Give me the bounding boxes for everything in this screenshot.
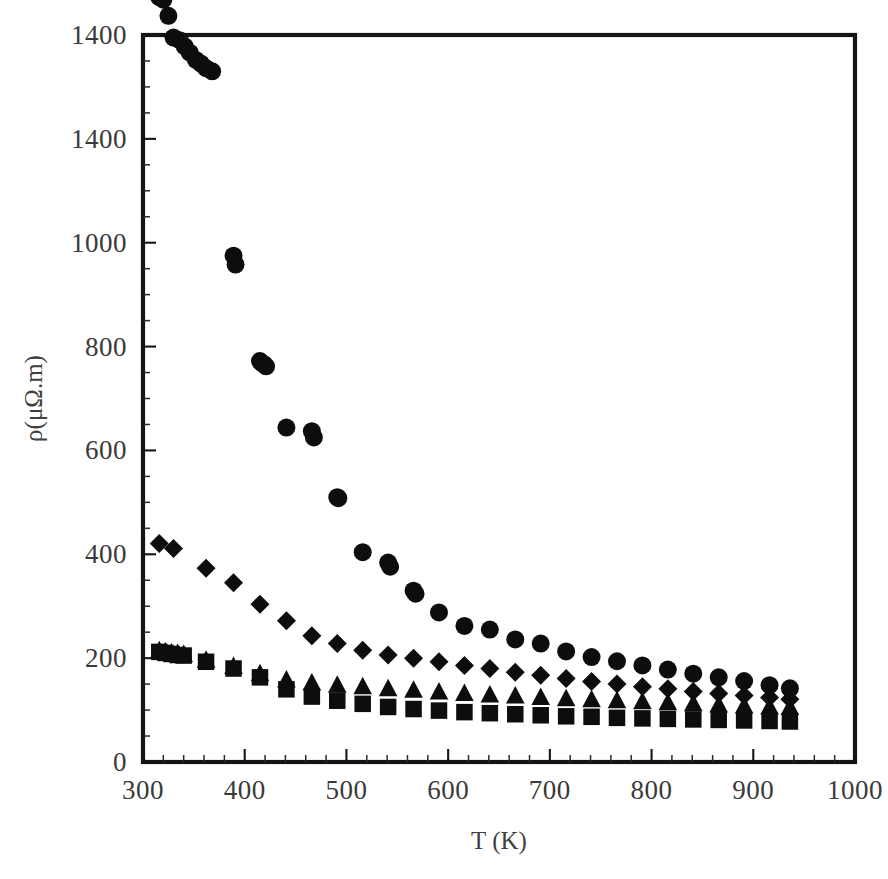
data-point-diamond	[582, 672, 601, 691]
y-tick-label: 600	[85, 435, 127, 465]
data-point-diamond	[379, 646, 398, 665]
y-tick-label: 1400	[71, 124, 127, 154]
data-point-diamond	[531, 666, 550, 685]
y-tick-label: 1400	[71, 20, 127, 50]
resistivity-temperature-figure: 3004005006007008009001000020040060080010…	[0, 0, 888, 879]
data-point-diamond	[197, 559, 216, 578]
data-point-circle	[455, 617, 473, 635]
data-point-triangle	[430, 682, 449, 700]
data-point-triangle	[353, 677, 372, 695]
series-circle	[150, 0, 799, 697]
x-tick-label: 700	[529, 775, 571, 805]
data-point-triangle	[608, 691, 627, 709]
data-point-square	[329, 692, 346, 709]
data-point-circle	[532, 635, 550, 653]
data-point-circle	[659, 661, 677, 679]
data-point-circle	[305, 428, 323, 446]
data-point-circle	[710, 668, 728, 686]
data-point-circle	[633, 656, 651, 674]
data-point-circle	[381, 558, 399, 576]
x-tick-label: 800	[631, 775, 673, 805]
series-triangle	[150, 641, 799, 715]
y-tick-label: 0	[113, 747, 127, 777]
x-tick-label: 500	[325, 775, 367, 805]
data-point-square	[175, 647, 192, 664]
data-point-circle	[203, 62, 221, 80]
data-point-square	[431, 702, 448, 719]
data-point-circle	[481, 621, 499, 639]
data-point-diamond	[353, 641, 372, 660]
data-point-square	[736, 712, 753, 729]
data-point-diamond	[480, 659, 499, 678]
data-point-triangle	[735, 696, 754, 714]
series-square	[151, 644, 798, 730]
data-point-square	[710, 712, 727, 729]
data-point-diamond	[557, 669, 576, 688]
data-point-circle	[277, 419, 295, 437]
data-point-circle	[608, 652, 626, 670]
x-tick-label: 600	[427, 775, 469, 805]
data-point-diamond	[224, 573, 243, 592]
data-point-circle	[430, 603, 448, 621]
y-tick-label: 1000	[71, 228, 127, 258]
x-tick-label: 400	[224, 775, 266, 805]
data-point-triangle	[328, 675, 347, 693]
data-point-diamond	[302, 626, 321, 645]
x-tick-label: 1000	[827, 775, 883, 805]
data-point-diamond	[429, 652, 448, 671]
data-point-triangle	[582, 690, 601, 708]
x-tick-label: 300	[122, 775, 164, 805]
y-axis-title: ρ(μΩ.m)	[20, 355, 48, 442]
data-point-triangle	[531, 688, 550, 706]
data-point-diamond	[277, 611, 296, 630]
data-point-square	[782, 713, 799, 730]
y-tick-label: 400	[85, 539, 127, 569]
data-point-triangle	[506, 686, 525, 704]
data-point-circle	[506, 630, 524, 648]
data-point-diamond	[455, 656, 474, 675]
data-point-circle	[257, 357, 275, 375]
data-point-triangle	[633, 692, 652, 710]
data-point-square	[660, 711, 677, 728]
data-point-square	[634, 710, 651, 727]
data-point-circle	[159, 7, 177, 25]
data-point-triangle	[709, 695, 728, 713]
series-diamond	[150, 534, 800, 709]
data-point-triangle	[455, 683, 474, 701]
data-point-square	[583, 709, 600, 726]
x-tick-label: 900	[732, 775, 774, 805]
data-point-circle	[684, 665, 702, 683]
data-point-circle	[227, 256, 245, 274]
data-point-diamond	[250, 595, 269, 614]
data-point-circle	[557, 642, 575, 660]
data-point-triangle	[379, 679, 398, 697]
data-point-circle	[407, 585, 425, 603]
data-point-square	[507, 706, 524, 723]
data-point-square	[558, 708, 575, 725]
data-point-square	[225, 660, 242, 677]
data-point-triangle	[684, 694, 703, 712]
data-point-square	[609, 710, 626, 727]
data-point-square	[198, 654, 215, 671]
scatter-plot: 3004005006007008009001000020040060080010…	[0, 0, 888, 879]
data-point-triangle	[557, 689, 576, 707]
x-axis-title: T (K)	[471, 827, 527, 855]
data-point-square	[761, 713, 778, 730]
data-point-circle	[329, 489, 347, 507]
data-point-square	[278, 681, 295, 698]
data-point-triangle	[659, 693, 678, 711]
plot-frame	[143, 35, 855, 762]
y-tick-label: 200	[85, 643, 127, 673]
data-point-circle	[583, 648, 601, 666]
data-point-square	[482, 705, 499, 722]
data-point-diamond	[506, 663, 525, 682]
data-point-diamond	[404, 649, 423, 668]
data-point-square	[685, 711, 702, 728]
data-point-square	[532, 707, 549, 724]
data-point-triangle	[481, 685, 500, 703]
y-tick-label: 800	[85, 332, 127, 362]
data-point-diamond	[328, 634, 347, 653]
data-point-triangle	[404, 680, 423, 698]
data-point-square	[252, 669, 269, 686]
data-point-square	[456, 704, 473, 721]
